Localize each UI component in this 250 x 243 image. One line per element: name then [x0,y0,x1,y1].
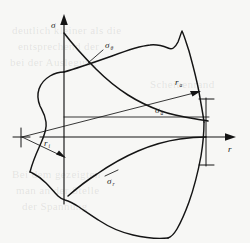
figure-container: deutlich kleiner als die entsprechend de… [0,0,250,243]
stress-distribution-diagram: σ θ σ r σ a r i r a σ r [0,0,250,243]
inner-radius-label: r [44,138,48,148]
sigma-axis-arrowhead [60,14,68,25]
average-stress-label: σ [155,105,160,115]
average-stress-label-subscript: a [161,110,164,116]
outer-radius-annotation: r a [175,77,183,88]
radial-stress-annotation: σ r [105,170,118,187]
outer-radius-label: r [175,77,179,87]
radial-stress-label: σ [107,176,112,186]
average-stress-annotation: σ a [155,105,164,116]
rotation-axis-cross-marker [13,128,30,147]
radial-stress-label-subscript: r [113,181,116,187]
disc-contour-upper-left [30,72,64,172]
sigma-axis-label: σ [51,20,56,30]
inner-radius-label-subscript: i [49,143,51,149]
radial-stress-curve [68,137,206,196]
outer-radius-label-subscript: a [180,82,183,88]
disc-contour-lower-left [30,172,168,238]
hoop-stress-label-subscript: θ [111,45,114,51]
r-axis-arrowhead [225,133,236,141]
inner-radius-annotation: r i [44,138,51,149]
r-axis-label: r [228,144,232,154]
hoop-stress-label: σ [105,40,110,50]
